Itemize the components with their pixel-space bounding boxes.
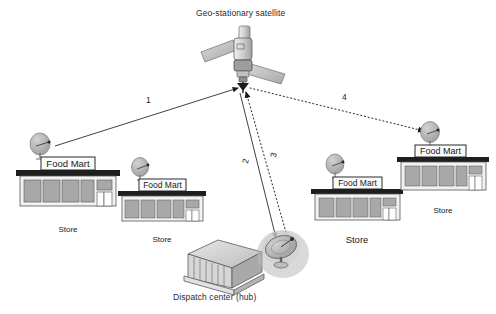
link-4-label: 4 xyxy=(342,92,347,102)
diagram-canvas: Geo-stationary satellite Food Mart xyxy=(0,0,496,314)
dispatch-center-graphic xyxy=(0,0,496,314)
dispatch-center-label: Dispatch center (hub) xyxy=(173,292,256,302)
hub-dish-icon xyxy=(257,230,309,278)
link-1-label: 1 xyxy=(146,95,151,105)
